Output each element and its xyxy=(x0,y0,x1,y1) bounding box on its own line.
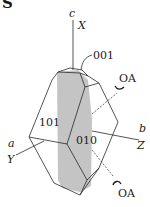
crystal-diagram xyxy=(0,0,150,207)
b-axis-label: b xyxy=(139,123,146,134)
oa-arc-lower-icon xyxy=(113,181,121,185)
optic-axis-upper xyxy=(92,93,117,114)
leader-001 xyxy=(81,55,92,70)
a-axis-line xyxy=(16,141,44,155)
a-axis-label: a xyxy=(8,138,15,149)
oa-arc-upper-icon xyxy=(115,86,124,89)
face-001-label: 001 xyxy=(93,50,114,61)
b-axis-line xyxy=(92,131,139,140)
panel-label: S xyxy=(2,0,13,11)
face-101-label: 101 xyxy=(39,117,60,128)
z-axis-label: Z xyxy=(137,140,145,151)
y-axis-label: Y xyxy=(7,154,14,165)
optic-plane-shading xyxy=(57,70,92,192)
x-axis-label: X xyxy=(78,20,86,31)
optic-axis-lower-label: OA xyxy=(118,188,135,199)
optic-axis-upper-label: OA xyxy=(119,73,136,84)
face-010-label: 010 xyxy=(76,135,97,146)
c-axis-label: c xyxy=(69,8,75,19)
